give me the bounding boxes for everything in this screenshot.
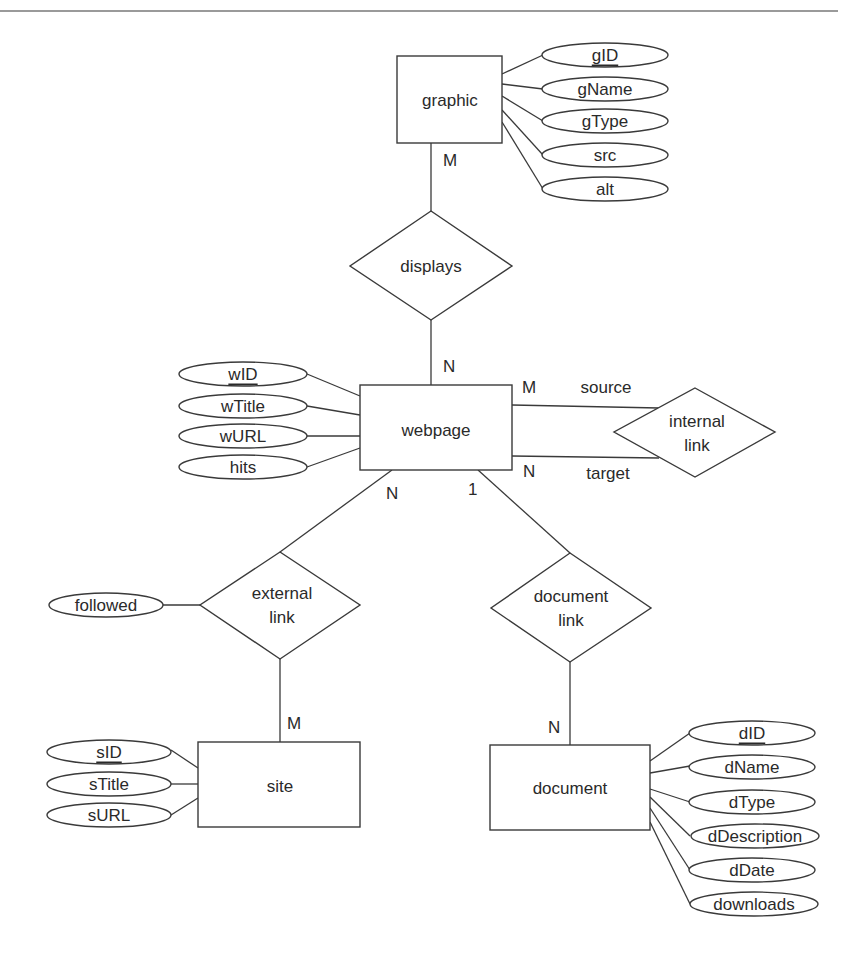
attribute-hits[interactable]: hits (179, 455, 307, 479)
relationship-document-link[interactable]: document link (491, 553, 651, 662)
attribute-downloads[interactable]: downloads (690, 892, 818, 916)
site-attributes: sID sTitle sURL (47, 740, 171, 827)
svg-text:wTitle: wTitle (220, 397, 265, 416)
svg-text:dType: dType (729, 793, 775, 812)
graphic-attributes: gID gName gType src alt (542, 43, 668, 201)
attribute-gName[interactable]: gName (542, 77, 668, 101)
svg-text:downloads: downloads (713, 895, 794, 914)
svg-text:dName: dName (725, 758, 780, 777)
svg-text:dDate: dDate (729, 861, 774, 880)
attribute-sTitle[interactable]: sTitle (47, 772, 171, 796)
svg-text:alt: alt (596, 180, 614, 199)
attribute-src[interactable]: src (542, 143, 668, 167)
cardinality-internal-target: N (523, 462, 535, 481)
webpage-attributes: wID wTitle wURL hits (179, 362, 307, 479)
attribute-dName[interactable]: dName (689, 755, 815, 779)
attribute-dType[interactable]: dType (689, 790, 815, 814)
svg-text:internal: internal (669, 412, 725, 431)
entity-site[interactable]: site (198, 742, 360, 827)
svg-text:link: link (269, 608, 295, 627)
svg-text:wURL: wURL (219, 427, 266, 446)
svg-text:sID: sID (96, 743, 122, 762)
svg-text:link: link (684, 436, 710, 455)
cardinality-document-link-document: N (548, 718, 560, 737)
cardinality-internal-source: M (522, 378, 536, 397)
cardinality-external-site: M (287, 714, 301, 733)
cardinality-displays-webpage: N (443, 357, 455, 376)
attribute-wID[interactable]: wID (179, 362, 307, 386)
attribute-dID[interactable]: dID (689, 721, 815, 745)
svg-text:hits: hits (230, 458, 256, 477)
relationship-label: displays (400, 257, 461, 276)
entity-label: document (533, 779, 608, 798)
svg-text:src: src (594, 146, 617, 165)
er-diagram: graphic gID gName gType src alt M displa… (0, 0, 860, 961)
svg-text:gName: gName (578, 80, 633, 99)
attribute-wURL[interactable]: wURL (179, 424, 307, 448)
attribute-gID[interactable]: gID (542, 43, 668, 67)
role-target: target (586, 464, 630, 483)
cardinality-webpage-document: 1 (468, 480, 477, 499)
relationship-internal-link[interactable]: internal link (614, 388, 775, 477)
svg-text:link: link (558, 611, 584, 630)
svg-text:sURL: sURL (88, 806, 131, 825)
cardinality-webpage-external: N (386, 484, 398, 503)
attribute-dDate[interactable]: dDate (689, 858, 815, 882)
attribute-sID[interactable]: sID (47, 740, 171, 764)
attribute-gType[interactable]: gType (542, 109, 668, 133)
svg-text:dID: dID (739, 724, 765, 743)
role-source: source (580, 378, 631, 397)
svg-text:gID: gID (592, 46, 618, 65)
attribute-sURL[interactable]: sURL (47, 803, 171, 827)
svg-text:followed: followed (75, 596, 137, 615)
entity-graphic[interactable]: graphic (397, 56, 502, 143)
cardinality-graphic-displays: M (443, 151, 457, 170)
svg-text:external: external (252, 584, 312, 603)
relationship-external-link[interactable]: external link (200, 552, 360, 659)
svg-text:gType: gType (582, 112, 628, 131)
svg-text:sTitle: sTitle (89, 775, 129, 794)
document-attributes: dID dName dType dDescription dDate downl… (689, 721, 819, 916)
relationship-displays[interactable]: displays (350, 211, 512, 320)
entity-webpage[interactable]: webpage (360, 385, 512, 470)
svg-text:dDescription: dDescription (708, 827, 803, 846)
entity-label: graphic (422, 91, 478, 110)
svg-text:wID: wID (227, 365, 257, 384)
svg-text:document: document (534, 587, 609, 606)
attribute-wTitle[interactable]: wTitle (179, 394, 307, 418)
entity-document[interactable]: document (490, 745, 650, 830)
entity-label: webpage (400, 421, 470, 440)
attribute-dDescription[interactable]: dDescription (691, 824, 819, 848)
attribute-alt[interactable]: alt (542, 177, 668, 201)
attribute-followed[interactable]: followed (49, 593, 163, 617)
entity-label: site (267, 777, 293, 796)
